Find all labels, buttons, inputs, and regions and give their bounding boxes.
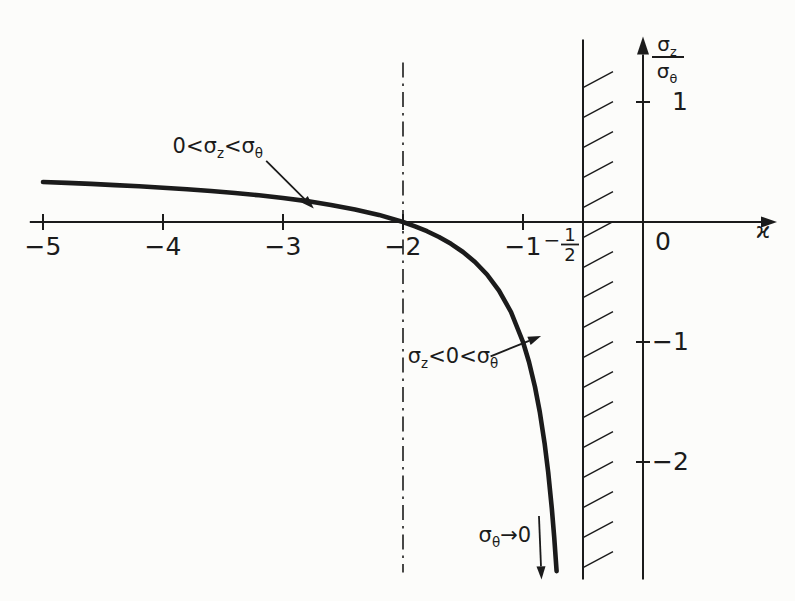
y-axis-fraction-label: σzσθ (652, 32, 684, 86)
svg-text:−: − (544, 228, 561, 252)
svg-text:−3: −3 (265, 232, 302, 261)
stress-ratio-plot-figure: −5−4−3−2−1−120ϰ 1−1−2 σzσθ 0<σz<σθσz<0<σ… (0, 0, 795, 601)
svg-text:−2: −2 (385, 232, 422, 261)
annotations: 0<σz<σθσz<0<σθσθ→0 (173, 134, 546, 579)
svg-text:−2: −2 (652, 447, 689, 476)
svg-text:σθ: σθ (657, 59, 678, 86)
hatched-boundary-line (583, 40, 613, 580)
y-axis: 1−1−2 (636, 36, 689, 579)
svg-text:1: 1 (672, 87, 688, 116)
svg-text:−4: −4 (145, 232, 182, 261)
svg-text:−1: −1 (652, 327, 689, 356)
svg-text:σz<0<σθ: σz<0<σθ (408, 344, 498, 371)
svg-text:2: 2 (564, 244, 575, 265)
svg-text:1: 1 (564, 224, 575, 245)
svg-text:σθ→0: σθ→0 (479, 523, 532, 550)
plot-svg: −5−4−3−2−1−120ϰ 1−1−2 σzσθ 0<σz<σθσz<0<σ… (0, 0, 795, 601)
svg-text:−5: −5 (25, 232, 62, 261)
svg-text:0<σz<σθ: 0<σz<σθ (173, 134, 263, 161)
svg-text:0: 0 (655, 227, 671, 256)
svg-text:−1: −1 (505, 232, 542, 261)
svg-text:σz: σz (657, 32, 677, 59)
svg-text:ϰ: ϰ (756, 218, 771, 243)
